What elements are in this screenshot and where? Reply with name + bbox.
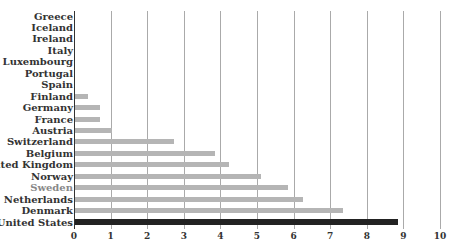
bar — [75, 208, 343, 213]
category-label: Austria — [32, 125, 73, 136]
x-tick-label: 9 — [393, 231, 413, 241]
gridline — [440, 11, 441, 229]
category-label: United States — [0, 217, 73, 228]
bar — [75, 162, 229, 167]
category-label: Portugal — [25, 68, 73, 79]
category-label: Iceland — [31, 22, 73, 33]
bar — [75, 117, 100, 122]
horizontal-bar-chart: GreeceIcelandIrelandItalyLuxembourgPortu… — [0, 0, 450, 244]
category-label: Ireland — [32, 33, 73, 44]
bar — [75, 197, 303, 202]
x-tick-label: 1 — [101, 231, 121, 241]
bar — [75, 174, 261, 179]
category-label: Germany — [23, 102, 73, 113]
bar — [75, 185, 288, 190]
category-label: Luxembourg — [3, 56, 73, 67]
gridline — [367, 11, 368, 229]
category-label: Greece — [34, 11, 73, 22]
gridline — [330, 11, 331, 229]
category-label: Denmark — [21, 205, 73, 216]
x-tick-label: 3 — [174, 231, 194, 241]
x-tick-label: 10 — [430, 231, 450, 241]
x-tick-label: 7 — [320, 231, 340, 241]
bar — [75, 105, 100, 110]
x-tick-label: 4 — [210, 231, 230, 241]
x-tick-label: 6 — [284, 231, 304, 241]
category-label: Belgium — [26, 148, 73, 159]
category-label: Spain — [41, 79, 73, 90]
bar — [75, 139, 174, 144]
category-label: Finland — [30, 91, 73, 102]
category-label: Italy — [48, 45, 73, 56]
x-tick-label: 0 — [64, 231, 84, 241]
category-label: France — [35, 114, 73, 125]
category-label: Sweden — [30, 182, 73, 193]
x-tick-label: 5 — [247, 231, 267, 241]
category-label: Netherlands — [4, 194, 73, 205]
category-label: Norway — [31, 171, 73, 182]
bar — [75, 219, 398, 225]
bar — [75, 128, 112, 133]
category-label: Switzerland — [7, 136, 73, 147]
gridline — [403, 11, 404, 229]
x-tick-label: 2 — [137, 231, 157, 241]
bar — [75, 94, 88, 99]
bar — [75, 151, 215, 156]
x-tick-label: 8 — [357, 231, 377, 241]
category-label: United Kingdom — [0, 159, 73, 170]
